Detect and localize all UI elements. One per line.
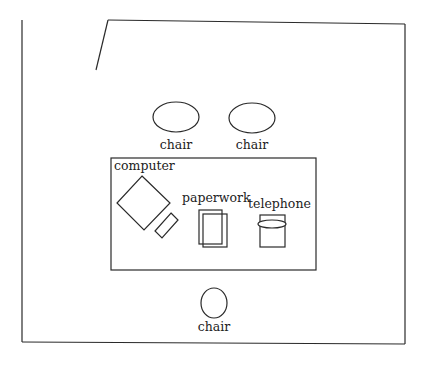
chair-label: chair — [198, 319, 231, 334]
paperwork-label: paperwork — [182, 190, 251, 205]
wall-bottom — [22, 342, 405, 344]
chair-icon — [201, 288, 227, 318]
computer-label: computer — [114, 158, 175, 173]
chair-label: chair — [160, 137, 193, 152]
desk: computer paperwork telephone — [111, 158, 316, 270]
paperwork: paperwork — [182, 190, 251, 247]
floor-plan: chair chair computer paperwork telephone — [0, 0, 428, 365]
chair-icon — [229, 103, 275, 133]
wall-top — [108, 20, 405, 24]
chair-top-left: chair — [153, 102, 199, 152]
telephone-label: telephone — [248, 196, 311, 211]
chair-top-right: chair — [229, 103, 275, 152]
monitor-icon — [117, 176, 170, 230]
door-swing-line — [96, 20, 108, 70]
chair-label: chair — [236, 137, 269, 152]
computer: computer — [114, 158, 178, 238]
chair-icon — [153, 102, 199, 132]
chair-bottom: chair — [198, 288, 231, 334]
room-walls — [22, 20, 405, 344]
telephone: telephone — [248, 196, 311, 247]
paper-sheet-front-icon — [203, 214, 227, 247]
keyboard-icon — [155, 213, 178, 238]
telephone-handset-icon — [258, 220, 286, 228]
